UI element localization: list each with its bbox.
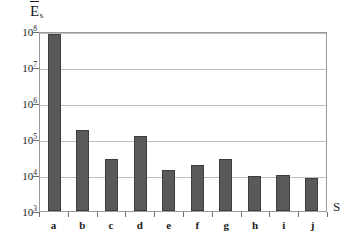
y-axis-tick-label: 107 [22,63,37,74]
bar-e [162,170,175,211]
x-axis-label-c: c [97,219,126,232]
x-axis-title: S [333,200,340,213]
x-axis-label-i: i [269,219,298,232]
y-axis-tick-label: 105 [22,135,37,146]
bar-a [48,34,61,211]
y-tick-exponent: 4 [33,168,37,177]
x-axis-tick [154,212,155,217]
y-tick-mantissa: 10 [22,98,33,110]
y-axis-tick-label: 104 [22,171,37,182]
y-tick-exponent: 8 [33,24,37,33]
x-axis-label-b: b [68,219,97,232]
bar-g [219,159,232,211]
x-axis-labels: abcdefghij [39,219,327,232]
y-tick-exponent: 3 [33,204,37,213]
bar-h [248,176,261,211]
bar-cell [69,33,98,211]
y-tick-mantissa: 10 [22,134,33,146]
x-axis-label-f: f [183,219,212,232]
y-axis-title-base: E [30,3,39,19]
y-tick-mantissa: 10 [22,26,33,38]
bar-cell [97,33,126,211]
y-axis-title: Es [30,4,43,20]
plot-area [39,32,327,212]
bar-j [305,178,318,211]
bar-chart-figure: Es 108107106105104103 abcdefghij S [0,0,352,248]
x-axis-tick [241,212,242,217]
bar-cell [154,33,183,211]
bar-i [276,175,289,211]
x-axis-tick [68,212,69,217]
bar-cell [297,33,326,211]
bar-c [105,159,118,211]
bar-f [191,165,204,211]
bar-cell [183,33,212,211]
x-axis-tick [39,212,40,217]
y-axis-tick-label: 108 [22,27,37,38]
bar-b [76,130,89,211]
y-tick-mantissa: 10 [22,206,33,218]
x-axis-label-a: a [39,219,68,232]
bar-cell [212,33,241,211]
x-axis-tick [183,212,184,217]
y-tick-exponent: 7 [33,60,37,69]
bar-cell [269,33,298,211]
x-axis-tick [298,212,299,217]
x-axis-tick [269,212,270,217]
x-axis-label-e: e [154,219,183,232]
bar-cell [240,33,269,211]
y-tick-mantissa: 10 [22,62,33,74]
bar-cell [40,33,69,211]
x-axis-label-h: h [241,219,270,232]
y-tick-exponent: 6 [33,96,37,105]
x-axis-label-g: g [212,219,241,232]
y-tick-mantissa: 10 [22,170,33,182]
bar-cell [126,33,155,211]
x-axis-tick [212,212,213,217]
bar-d [134,136,147,211]
y-axis-title-subscript: s [40,10,44,20]
x-axis-label-d: d [125,219,154,232]
y-axis-tick-label: 103 [22,207,37,218]
x-axis-tick [327,212,328,217]
x-axis-label-j: j [298,219,327,232]
y-tick-exponent: 5 [33,132,37,141]
bar-series [40,33,326,211]
x-axis-tick [125,212,126,217]
y-axis-tick-label: 106 [22,99,37,110]
x-axis-tick [97,212,98,217]
